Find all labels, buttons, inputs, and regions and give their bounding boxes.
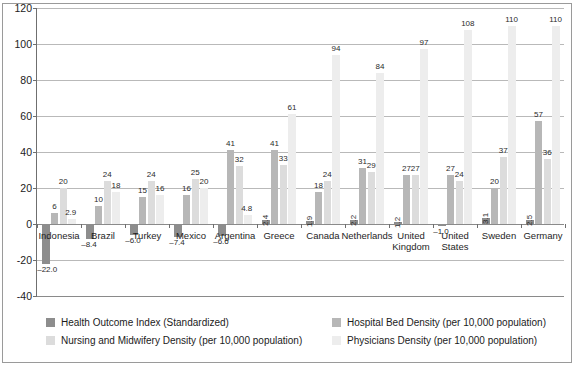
bar-value-label: 20 [490, 178, 499, 186]
bar[interactable] [156, 195, 164, 224]
legend-label: Physicians Density (per 10,000 populatio… [347, 335, 537, 346]
bar[interactable] [324, 181, 332, 224]
bar[interactable] [552, 26, 560, 224]
bar-group: –1.02724108United States [433, 8, 477, 296]
bar[interactable] [148, 181, 156, 224]
bar[interactable] [51, 213, 59, 224]
y-tick-label: 120 [14, 2, 32, 14]
bar-value-label: 41 [226, 140, 235, 148]
bar[interactable] [500, 157, 508, 224]
bar[interactable] [447, 175, 455, 224]
chart-legend: Health Outcome Index (Standardized)Hospi… [36, 313, 564, 357]
bar-value-label: 1.9 [306, 215, 314, 226]
bar[interactable] [456, 181, 464, 224]
bar[interactable] [68, 219, 76, 224]
bar[interactable] [60, 188, 68, 224]
bar[interactable] [332, 55, 340, 224]
bar-group: 2.55736110Germany [521, 8, 565, 296]
bar-value-label: 4.8 [241, 205, 252, 213]
bar-value-label: 18 [111, 182, 120, 190]
bar[interactable] [359, 168, 367, 224]
bar-value-label: 97 [419, 39, 428, 47]
y-tick-label: 20 [20, 182, 32, 194]
y-tick-label: -40 [17, 290, 32, 302]
bar-value-label: 20 [199, 178, 208, 186]
group-separator-tick [345, 224, 346, 228]
bar-value-label: 15 [138, 187, 147, 195]
bar[interactable] [368, 172, 376, 224]
bar-groups: –22.06202.9Indonesia–8.4102418Brazil–6.0… [37, 8, 564, 296]
y-tick-label: 60 [20, 110, 32, 122]
bar-value-label: 94 [331, 45, 340, 53]
bar-value-label: –22.0 [37, 266, 57, 274]
legend-swatch-icon [332, 318, 341, 327]
bar[interactable] [95, 206, 103, 224]
y-tick-label: 80 [20, 74, 32, 86]
bar-value-label: 16 [182, 185, 191, 193]
legend-item[interactable]: Physicians Density (per 10,000 populatio… [332, 335, 537, 346]
bar[interactable] [288, 114, 296, 224]
legend-label: Nursing and Midwifery Density (per 10,00… [61, 335, 302, 346]
bar-value-label: 29 [367, 162, 376, 170]
group-separator-tick [477, 224, 478, 228]
y-tickmark--40 [33, 296, 37, 297]
bar-group: –6.641324.8Argentina [213, 8, 257, 296]
bar-value-label: 25 [191, 169, 200, 177]
bar-value-label: 24 [103, 171, 112, 179]
bar[interactable] [376, 73, 384, 224]
bar-value-label: 41 [270, 140, 279, 148]
bar-value-label: 2.9 [65, 209, 76, 217]
gridline--40 [37, 296, 564, 297]
bar[interactable] [244, 215, 252, 224]
legend-item[interactable]: Health Outcome Index (Standardized) [46, 317, 229, 328]
bar-value-label: 3.1 [482, 213, 490, 224]
bar-value-label: 36 [543, 149, 552, 157]
legend-item[interactable]: Nursing and Midwifery Density (per 10,00… [46, 335, 302, 346]
bar[interactable] [464, 30, 472, 224]
bar-group: 1.9182494Canada [301, 8, 345, 296]
bar[interactable] [227, 150, 235, 224]
bar[interactable] [403, 175, 411, 224]
bar-group: –22.06202.9Indonesia [37, 8, 81, 296]
chart-screenshot: -40-20020406080100120 –22.06202.9Indones… [0, 0, 575, 366]
bar[interactable] [200, 188, 208, 224]
bar[interactable] [139, 197, 147, 224]
bar-value-label: 18 [314, 182, 323, 190]
bar[interactable] [192, 179, 200, 224]
bar[interactable] [271, 150, 279, 224]
bar-value-label: 6 [52, 203, 56, 211]
bar[interactable] [412, 175, 420, 224]
bar[interactable] [491, 188, 499, 224]
bar[interactable] [420, 49, 428, 224]
bar[interactable] [112, 192, 120, 224]
bar-group: 2.4413361Greece [257, 8, 301, 296]
group-separator-tick [521, 224, 522, 228]
bar[interactable] [236, 166, 244, 224]
bar-value-label: –8.4 [81, 241, 97, 249]
bar[interactable] [544, 159, 552, 224]
bar-value-label: 16 [155, 185, 164, 193]
bar-group: –8.4102418Brazil [81, 8, 125, 296]
bar-value-label: 61 [287, 104, 296, 112]
bar-value-label: 2.5 [526, 214, 534, 225]
group-separator-tick [169, 224, 170, 228]
legend-label: Hospital Bed Density (per 10,000 populat… [347, 317, 546, 328]
plot-area: -40-20020406080100120 –22.06202.9Indones… [36, 8, 564, 296]
bar[interactable] [315, 192, 323, 224]
legend-swatch-icon [332, 336, 341, 345]
bar-value-label: 2.2 [350, 215, 358, 226]
bar[interactable] [438, 224, 446, 226]
legend-swatch-icon [46, 336, 55, 345]
group-separator-tick [81, 224, 82, 228]
bar[interactable] [280, 165, 288, 224]
y-tick-label: 100 [14, 38, 32, 50]
bar-value-label: 110 [505, 16, 518, 24]
bar-value-label: 33 [279, 155, 288, 163]
group-separator-tick [257, 224, 258, 228]
legend-item[interactable]: Hospital Bed Density (per 10,000 populat… [332, 317, 546, 328]
bar[interactable] [508, 26, 516, 224]
bar[interactable] [104, 181, 112, 224]
bar[interactable] [535, 121, 543, 224]
bar-value-label: 27 [446, 165, 455, 173]
bar[interactable] [183, 195, 191, 224]
